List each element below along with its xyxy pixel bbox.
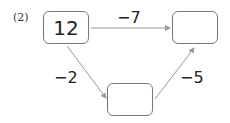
- op-start-to-end: −7: [117, 8, 141, 27]
- op-middle-to-end: −5: [180, 68, 204, 87]
- end-box-answer[interactable]: [172, 11, 218, 44]
- problem-number: (2): [13, 11, 29, 24]
- start-box: 12: [43, 11, 89, 44]
- op-start-to-middle: −2: [54, 68, 78, 87]
- middle-box-answer[interactable]: [107, 83, 153, 116]
